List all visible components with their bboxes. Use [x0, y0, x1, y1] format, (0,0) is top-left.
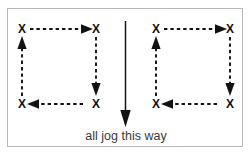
right-circuit-marker-bottom-left: X — [152, 97, 160, 111]
right-circuit-marker-top-right: X — [226, 22, 234, 36]
diagram-canvas: X X X X X X X X — [0, 0, 252, 162]
left-circuit-marker-top-right: X — [92, 22, 100, 36]
center-arrow — [120, 21, 130, 127]
right-circuit-left-arrowhead — [151, 36, 160, 49]
left-circuit-marker-top-left: X — [18, 22, 26, 36]
center-arrow-head — [120, 110, 130, 127]
left-circuit-left-arrowhead — [17, 36, 26, 49]
jogging-drill-diagram: X X X X X X X X — [0, 0, 252, 162]
left-circuit-bottom-arrowhead — [27, 99, 39, 109]
right-circuit-bottom-arrowhead — [161, 99, 173, 109]
right-circuit: X X X X — [151, 22, 234, 111]
right-circuit-right-arrowhead — [225, 83, 234, 96]
left-circuit-right-arrowhead — [91, 83, 100, 96]
left-circuit: X X X X — [17, 22, 100, 111]
diagram-caption: all jog this way — [85, 129, 167, 143]
left-circuit-marker-bottom-left: X — [18, 97, 26, 111]
right-circuit-marker-top-left: X — [152, 22, 160, 36]
right-circuit-marker-bottom-right: X — [226, 97, 234, 111]
left-circuit-marker-bottom-right: X — [92, 97, 100, 111]
